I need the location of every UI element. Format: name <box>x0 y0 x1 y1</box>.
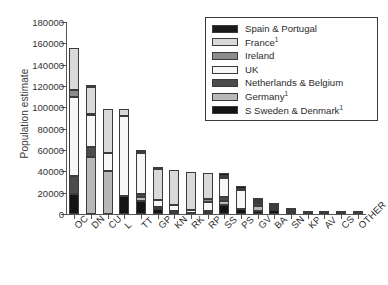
bar-segment <box>286 211 296 214</box>
bar-segment <box>203 173 213 199</box>
bar-segment <box>186 210 196 213</box>
bar-segment <box>219 205 229 214</box>
legend-swatch <box>212 52 238 60</box>
bar-gp[interactable] <box>153 168 163 214</box>
bar-segment <box>69 48 79 90</box>
x-label-l: L <box>122 219 134 231</box>
y-tick-label: 140000 <box>4 65 64 66</box>
bar-segment <box>203 202 213 211</box>
legend-footnote-marker: 1 <box>339 104 343 111</box>
bar-segment <box>169 205 179 211</box>
bar-segment <box>303 211 313 213</box>
bar-segment <box>203 211 213 214</box>
bar-ps[interactable] <box>236 186 246 214</box>
bar-tt[interactable] <box>136 150 146 214</box>
legend-label: Ireland <box>245 51 274 61</box>
legend-swatch <box>212 25 238 33</box>
y-tick-label: 60000 <box>4 150 64 151</box>
bar-cu[interactable] <box>103 109 113 214</box>
legend-label: France1 <box>245 37 278 48</box>
bar-segment <box>69 90 79 97</box>
bar-segment <box>203 199 213 202</box>
bar-segment <box>236 186 246 189</box>
bar-segment <box>269 210 279 214</box>
bar-segment <box>69 194 79 214</box>
bar-segment <box>253 211 263 214</box>
bar-segment <box>219 176 229 179</box>
bar-segment <box>136 197 146 201</box>
bar-segment <box>69 97 79 176</box>
bar-segment <box>219 197 229 201</box>
bar-segment <box>219 201 229 205</box>
bar-segment <box>119 116 129 195</box>
legend-label: Netherlands & Belgium <box>245 78 343 88</box>
bar-segment <box>286 208 296 210</box>
bar-segment <box>86 157 96 214</box>
bar-ss[interactable] <box>219 173 229 214</box>
bar-segment <box>269 203 279 205</box>
bar-rk[interactable] <box>186 172 196 214</box>
legend-label: UK <box>245 65 258 75</box>
bar-kn[interactable] <box>169 170 179 214</box>
bar-oc[interactable] <box>69 48 79 214</box>
bar-cs[interactable] <box>336 213 346 214</box>
legend-swatch <box>212 79 238 87</box>
bar-rp[interactable] <box>203 173 213 214</box>
bar-segment <box>353 211 363 213</box>
bar-other[interactable] <box>353 211 363 214</box>
legend-footnote-marker: 1 <box>284 90 288 97</box>
legend-item[interactable]: UK <box>212 63 372 77</box>
bar-segment <box>269 208 279 210</box>
legend-swatch <box>212 93 238 101</box>
bar-segment <box>336 211 346 213</box>
bar-segment <box>153 167 163 169</box>
bar-segment <box>136 201 146 214</box>
bar-ba[interactable] <box>269 205 279 214</box>
x-tick <box>208 214 209 219</box>
bar-segment <box>236 190 246 209</box>
bar-av[interactable] <box>319 213 329 214</box>
bar-gv[interactable] <box>253 199 263 214</box>
bar-segment <box>119 109 129 116</box>
bar-segment <box>86 85 96 87</box>
y-tick-label: 80000 <box>4 129 64 130</box>
bar-segment <box>153 209 163 214</box>
legend-item[interactable]: France1 <box>212 36 372 50</box>
bar-segment <box>86 115 96 146</box>
bar-segment <box>103 153 113 171</box>
legend-swatch <box>212 66 238 74</box>
y-tick-label: 40000 <box>4 171 64 172</box>
x-tick <box>308 214 309 219</box>
bar-segment <box>253 200 263 202</box>
bar-segment <box>319 211 329 213</box>
bar-segment <box>86 87 96 114</box>
legend-item[interactable]: S Sweden & Denmark1 <box>212 104 372 118</box>
legend-swatch <box>212 106 238 114</box>
bar-segment <box>236 209 246 214</box>
legend-item[interactable]: Ireland <box>212 49 372 63</box>
legend-item[interactable]: Netherlands & Belgium <box>212 76 372 90</box>
y-tick-label: 20000 <box>4 193 64 194</box>
bar-kp[interactable] <box>303 213 313 214</box>
y-axis-line <box>66 22 67 215</box>
legend-item[interactable]: Spain & Portugal <box>212 22 372 36</box>
bar-segment <box>119 196 129 214</box>
bar-segment <box>136 153 146 194</box>
legend-swatch <box>212 38 238 46</box>
legend-item[interactable]: Germany1 <box>212 90 372 104</box>
bar-l[interactable] <box>119 109 129 214</box>
bar-segment <box>69 176 79 194</box>
y-tick-label: 100000 <box>4 107 64 108</box>
bar-segment <box>153 169 163 200</box>
bar-segment <box>219 173 229 175</box>
bar-sn[interactable] <box>286 210 296 214</box>
legend-label: Spain & Portugal <box>245 24 317 34</box>
bar-segment <box>136 194 146 198</box>
x-tick <box>358 214 359 219</box>
legend-label: Germany1 <box>245 91 288 102</box>
legend-box: Spain & PortugalFrance1IrelandUKNetherla… <box>205 17 378 121</box>
bar-dn[interactable] <box>86 85 96 214</box>
bar-segment <box>253 198 263 200</box>
bar-segment <box>153 200 163 207</box>
